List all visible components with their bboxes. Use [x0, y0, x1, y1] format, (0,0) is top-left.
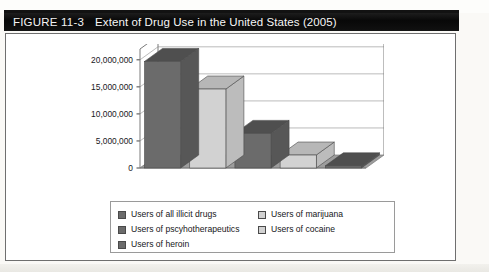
legend-item: Users of pscyhotherapeutics — [118, 225, 258, 234]
scan-bottom-margin — [0, 264, 489, 272]
title-row: FIGURE 11-3 Extent of Drug Use in the Un… — [13, 13, 337, 30]
legend-swatch-dark — [118, 226, 126, 234]
y-tick-label: 10,000,000 — [91, 109, 133, 119]
scan-top-margin — [0, 0, 489, 13]
chart-legend: Users of all illicit drugsUsers of marij… — [110, 201, 395, 253]
y-axis-tick-labels: 05,000,00010,000,00015,000,00020,000,000 — [91, 55, 133, 173]
legend-label: Users of pscyhotherapeutics — [131, 225, 239, 234]
legend-label: Users of cocaine — [271, 225, 335, 234]
figure-content-panel: 05,000,00010,000,00015,000,00020,000,000… — [5, 33, 456, 261]
y-tick-label: 0 — [128, 163, 133, 173]
legend-label: Users of heroin — [131, 240, 189, 249]
y-tick-label: 5,000,000 — [96, 136, 134, 146]
bar-chart: 05,000,00010,000,00015,000,00020,000,000 — [84, 44, 384, 194]
legend-item: Users of all illicit drugs — [118, 210, 258, 219]
bar-1 — [145, 48, 199, 168]
legend-swatch-light — [258, 211, 266, 219]
legend-item: Users of heroin — [118, 240, 258, 249]
figure-number-label: FIGURE 11-3 — [13, 16, 84, 28]
y-tick-label: 15,000,000 — [91, 82, 133, 92]
y-tick-label: 20,000,000 — [91, 55, 133, 65]
legend-swatch-light — [258, 226, 266, 234]
chart-svg: 05,000,00010,000,00015,000,00020,000,000 — [84, 44, 384, 194]
legend-swatch-dark — [118, 211, 126, 219]
figure-container: FIGURE 11-3 Extent of Drug Use in the Un… — [0, 0, 489, 272]
legend-label: Users of all illicit drugs — [131, 210, 216, 219]
figure-title-bar: FIGURE 11-3 Extent of Drug Use in the Un… — [4, 13, 459, 30]
legend-label: Users of marijuana — [271, 210, 343, 219]
legend-item: Users of cocaine — [258, 225, 398, 234]
legend-swatch-dark — [118, 241, 126, 249]
page-title: Extent of Drug Use in the United States … — [95, 16, 337, 28]
legend-item: Users of marijuana — [258, 210, 398, 219]
legend-grid: Users of all illicit drugsUsers of marij… — [118, 207, 394, 252]
